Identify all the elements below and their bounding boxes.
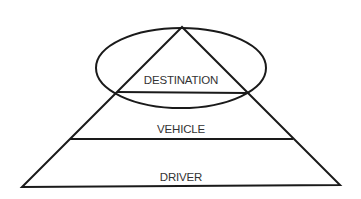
pyramid-diagram [0, 0, 361, 199]
destination-ellipse [96, 28, 266, 108]
vehicle-label: VEHICLE [157, 123, 205, 135]
destination-divider [117, 92, 246, 93]
driver-label: DRIVER [160, 171, 202, 183]
destination-label: DESTINATION [144, 74, 218, 86]
